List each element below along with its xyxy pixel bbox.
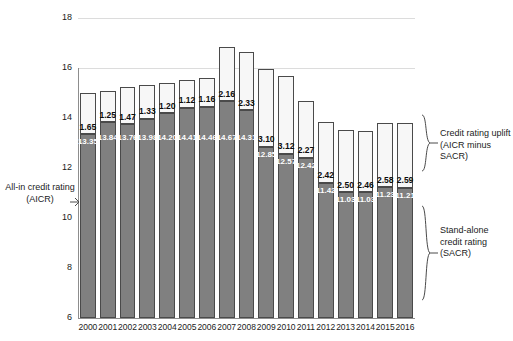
bar-group[interactable]: 2.5911.21 xyxy=(397,123,413,318)
bar-group[interactable]: 3.1012.85 xyxy=(258,69,274,318)
bar-group[interactable]: 2.4211.42 xyxy=(318,122,334,318)
x-axis-tick-label: 2005 xyxy=(177,323,197,332)
bar-label-uplift: 3.12 xyxy=(278,142,295,151)
bar-group[interactable]: 2.5811.23 xyxy=(377,123,393,318)
bar-segment-sacr[interactable] xyxy=(100,122,116,318)
bar-label-uplift: 1.47 xyxy=(119,113,136,122)
x-axis-tick-label: 2008 xyxy=(237,323,257,332)
bar-group[interactable]: 1.1614.46 xyxy=(199,78,215,319)
uplift-brace-icon xyxy=(418,114,438,172)
bar-segment-sacr[interactable] xyxy=(358,192,374,318)
bar-segment-sacr[interactable] xyxy=(278,154,294,318)
bar-segment-sacr[interactable] xyxy=(258,147,274,318)
bar-label-uplift: 2.16 xyxy=(218,90,235,99)
bar-segment-sacr[interactable] xyxy=(298,158,314,319)
annotation-stand-alone-credit-rating: Stand-alone credit rating (SACR) xyxy=(440,225,512,260)
bar-label-uplift: 1.20 xyxy=(159,102,176,111)
x-axis-tick-label: 2015 xyxy=(375,323,395,332)
bar-label-sacr: 11.23 xyxy=(375,191,395,199)
annotation-credit-rating-uplift: Credit rating uplift (AICR minus SACR) xyxy=(440,128,512,163)
bar-label-uplift: 2.42 xyxy=(318,171,335,180)
x-axis-tick-label: 2006 xyxy=(197,323,217,332)
bar-group[interactable]: 1.2014.20 xyxy=(159,83,175,318)
bar-segment-sacr[interactable] xyxy=(120,124,136,318)
bar-label-uplift: 1.65 xyxy=(80,123,97,132)
bar-label-uplift: 2.27 xyxy=(298,146,315,155)
stacked-bar-chart: 681012141618 1.6513.351.2513.841.4713.76… xyxy=(0,0,513,341)
bar-group[interactable]: 2.3314.31 xyxy=(239,52,255,318)
sacr-brace-icon xyxy=(418,205,438,301)
bar-segment-sacr[interactable] xyxy=(377,187,393,318)
bar-group[interactable]: 1.3313.98 xyxy=(139,85,155,318)
bar-label-sacr: 12.85 xyxy=(256,151,276,159)
x-axis-line xyxy=(78,318,415,319)
y-axis-tick-value: 6 xyxy=(48,313,72,322)
bar-group[interactable]: 1.4713.76 xyxy=(120,87,136,318)
bar-label-sacr: 11.21 xyxy=(395,192,415,200)
bar-group[interactable]: 2.1614.67 xyxy=(219,47,235,318)
x-axis-tick-label: 2001 xyxy=(98,323,118,332)
x-axis-tick-label: 2014 xyxy=(356,323,376,332)
bar-label-sacr: 14.31 xyxy=(236,134,256,142)
bar-label-sacr: 13.35 xyxy=(78,138,98,146)
bar-label-uplift: 2.59 xyxy=(397,176,414,185)
x-axis-tick-label: 2013 xyxy=(336,323,356,332)
bar-label-uplift: 2.33 xyxy=(238,99,255,108)
bar-label-uplift: 2.46 xyxy=(357,181,374,190)
y-axis-tick-value: 10 xyxy=(48,213,72,222)
x-axis-tick-label: 2007 xyxy=(217,323,237,332)
x-axis-tick-label: 2011 xyxy=(296,323,316,332)
bar-label-sacr: 13.98 xyxy=(137,134,157,142)
annotation-all-in-credit-rating: All-in credit rating (AICR) xyxy=(4,182,76,205)
bar-label-uplift: 1.25 xyxy=(99,111,116,120)
bar-segment-sacr[interactable] xyxy=(397,188,413,318)
bar-label-sacr: 14.46 xyxy=(197,134,217,142)
bar-label-sacr: 14.67 xyxy=(217,134,237,142)
bar-segment-sacr[interactable] xyxy=(318,183,334,319)
bar-label-uplift: 1.33 xyxy=(139,107,156,116)
bar-group[interactable]: 1.6513.35 xyxy=(80,93,96,318)
x-axis-tick-label: 2000 xyxy=(78,323,98,332)
bar-label-uplift: 3.10 xyxy=(258,135,275,144)
bar-label-uplift: 2.58 xyxy=(377,176,394,185)
bar-segment-sacr[interactable] xyxy=(338,192,354,318)
bar-segment-sacr[interactable] xyxy=(139,119,155,319)
x-axis-tick-label: 2016 xyxy=(395,323,415,332)
y-axis-tick-value: 14 xyxy=(48,113,72,122)
bar-label-sacr: 11.03 xyxy=(356,196,376,204)
bar-label-uplift: 1.12 xyxy=(179,96,196,105)
bar-label-sacr: 13.84 xyxy=(98,134,118,142)
bar-group[interactable]: 1.2513.84 xyxy=(100,91,116,318)
left-annotation-pointer-icon xyxy=(70,196,80,208)
x-axis-tick-label: 2002 xyxy=(118,323,138,332)
x-axis-tick-label: 2012 xyxy=(316,323,336,332)
y-axis-tick-value: 18 xyxy=(48,13,72,22)
x-axis-tick-label: 2010 xyxy=(276,323,296,332)
bar-segment-sacr[interactable] xyxy=(159,113,175,318)
x-axis-tick-label: 2004 xyxy=(157,323,177,332)
bar-group[interactable]: 2.4611.03 xyxy=(358,131,374,318)
bar-label-sacr: 11.03 xyxy=(336,196,356,204)
bar-group[interactable]: 3.1212.57 xyxy=(278,76,294,318)
bar-label-sacr: 12.57 xyxy=(276,158,296,166)
bar-label-sacr: 13.76 xyxy=(118,134,138,142)
plot-area: 1.6513.351.2513.841.4713.761.3313.981.20… xyxy=(78,18,415,318)
bar-label-sacr: 14.20 xyxy=(157,134,177,142)
x-axis-tick-label: 2009 xyxy=(256,323,276,332)
bar-group[interactable]: 1.1214.41 xyxy=(179,80,195,318)
bar-group[interactable]: 2.2712.42 xyxy=(298,101,314,318)
bar-label-sacr: 12.42 xyxy=(296,162,316,170)
bar-group[interactable]: 2.5011.03 xyxy=(338,130,354,318)
y-axis-tick-value: 12 xyxy=(48,163,72,172)
bar-segment-sacr[interactable] xyxy=(80,134,96,318)
x-axis-tick-label: 2003 xyxy=(137,323,157,332)
bar-label-uplift: 1.16 xyxy=(199,95,216,104)
y-axis-tick-value: 8 xyxy=(48,263,72,272)
y-axis-tick-value: 16 xyxy=(48,63,72,72)
bar-label-uplift: 2.50 xyxy=(337,181,354,190)
bar-label-sacr: 11.42 xyxy=(316,187,336,195)
bar-label-sacr: 14.41 xyxy=(177,134,197,142)
